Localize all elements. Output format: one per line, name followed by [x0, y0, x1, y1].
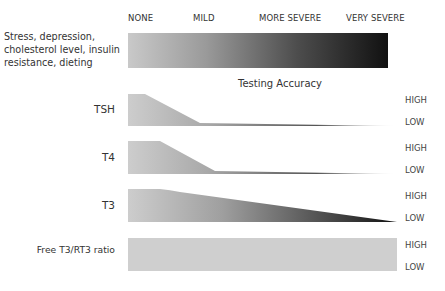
- tsh-accuracy-shape: [128, 94, 397, 126]
- tsh-low-label: LOW: [405, 117, 425, 127]
- t4-high-label: HIGH: [405, 143, 427, 153]
- tsh-high-label: HIGH: [405, 95, 427, 105]
- t3-high-label: HIGH: [405, 191, 427, 201]
- row-label-t3: T3: [102, 199, 115, 211]
- row-label-t4: T4: [102, 151, 115, 163]
- ft3-rt3-high-label: HIGH: [405, 240, 427, 250]
- t4-accuracy-shape: [128, 141, 397, 174]
- t3-low-label: LOW: [405, 213, 425, 223]
- ft3-rt3-low-label: LOW: [405, 262, 425, 272]
- ft3-rt3-accuracy-shape: [128, 238, 397, 271]
- t4-low-label: LOW: [405, 165, 425, 175]
- row-label-tsh: TSH: [94, 103, 115, 115]
- t3-accuracy-shape: [128, 189, 397, 222]
- row-label-free-t3-rt3: Free T3/RT3 ratio: [37, 244, 115, 255]
